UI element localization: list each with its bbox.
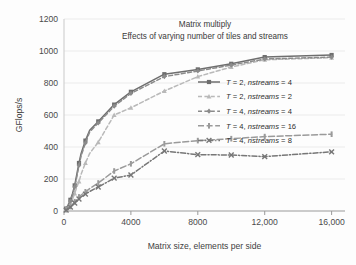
legend-label: T = 4, nstreams = 16 <box>226 122 296 131</box>
data-series-group <box>64 53 334 213</box>
data-point-marker <box>129 105 134 110</box>
legend-label: T = 2, nstreams = 4 <box>226 78 292 87</box>
chart-title-group: Matrix multiplyEffects of varying number… <box>122 20 288 41</box>
y-tick-label: 0 <box>53 206 58 216</box>
series-3 <box>65 131 332 212</box>
y-tick-label: 1000 <box>39 46 58 56</box>
data-point-marker <box>77 179 82 184</box>
legend-label: T = 2, nstreams = 2 <box>226 92 292 101</box>
data-point-marker <box>83 160 88 165</box>
data-point-marker <box>113 168 115 174</box>
y-axis-label: GFlops/s <box>14 98 24 132</box>
line-chart: 020040060080010001200 04000800012,00016,… <box>0 0 356 265</box>
x-axis-label: Matrix size, elements per side <box>148 241 262 251</box>
chart-screenshot: 020040060080010001200 04000800012,00016,… <box>0 0 356 265</box>
y-tick-label: 200 <box>44 174 59 184</box>
x-tick-label: 12,000 <box>252 217 279 227</box>
legend-item-4[interactable]: T = 4, nstreams = 8 <box>198 136 292 145</box>
x-tick-label: 8000 <box>188 217 207 227</box>
series-1 <box>64 55 334 211</box>
data-point-marker <box>163 141 165 147</box>
x-axis-tick-labels: 04000800012,00016,000 <box>62 211 345 227</box>
legend-item-3[interactable]: T = 4, nstreams = 16 <box>198 122 296 131</box>
x-tick-label: 4000 <box>121 217 140 227</box>
x-tick-label: 0 <box>62 217 67 227</box>
legend-item-0[interactable]: T = 2, nstreams = 4 <box>198 78 292 87</box>
data-point-marker <box>207 109 212 114</box>
y-tick-label: 1200 <box>39 14 58 24</box>
data-point-marker <box>208 123 210 129</box>
y-tick-label: 400 <box>44 142 59 152</box>
series-4 <box>64 149 334 213</box>
legend-item-1[interactable]: T = 2, nstreams = 2 <box>198 92 292 101</box>
data-point-marker <box>331 131 333 137</box>
series-line <box>66 151 331 210</box>
y-axis-tick-labels: 020040060080010001200 <box>39 14 58 216</box>
data-point-marker <box>207 80 211 84</box>
x-tick-label: 16,000 <box>318 217 345 227</box>
data-point-marker <box>97 180 99 186</box>
data-point-marker <box>130 161 132 167</box>
legend: T = 2, nstreams = 4T = 2, nstreams = 2T … <box>198 78 296 145</box>
chart-title: Matrix multiply <box>179 20 232 29</box>
legend-label: T = 4, nstreams = 4 <box>226 107 292 116</box>
chart-subtitle: Effects of varying number of tiles and s… <box>122 32 288 41</box>
legend-label: T = 4, nstreams = 8 <box>226 136 292 145</box>
y-tick-label: 600 <box>44 110 59 120</box>
series-line <box>66 134 331 210</box>
y-tick-label: 800 <box>44 78 59 88</box>
